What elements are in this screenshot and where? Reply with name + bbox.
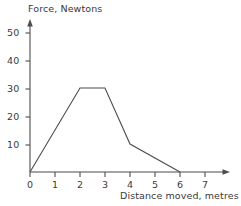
chart-figure: 50 40 30 20 10 0 1 2 3 4 5 6 7 Force, Ne… [0, 0, 241, 206]
y-axis-title: Force, Newtons [28, 3, 102, 14]
x-tick-label-4: 4 [127, 179, 133, 190]
y-tick-label-10: 10 [7, 139, 19, 150]
series-line-force [30, 88, 180, 172]
y-axis-arrow-icon [27, 19, 33, 27]
chart-plot-area [0, 0, 241, 206]
x-tick-label-3: 3 [102, 179, 108, 190]
x-tick-label-0: 0 [27, 179, 33, 190]
y-tick-label-20: 20 [7, 111, 19, 122]
x-tick-label-5: 5 [152, 179, 158, 190]
x-axis-arrow-icon [223, 169, 231, 175]
x-axis-ticks [30, 172, 205, 177]
y-axis-ticks [26, 33, 31, 145]
y-tick-label-40: 40 [7, 55, 19, 66]
y-tick-label-30: 30 [7, 83, 19, 94]
y-tick-label-50: 50 [7, 27, 19, 38]
x-tick-label-2: 2 [77, 179, 83, 190]
x-axis-title: Distance moved, metres [120, 190, 239, 201]
x-tick-label-1: 1 [52, 179, 58, 190]
x-tick-label-6: 6 [177, 179, 183, 190]
x-tick-label-7: 7 [202, 179, 208, 190]
